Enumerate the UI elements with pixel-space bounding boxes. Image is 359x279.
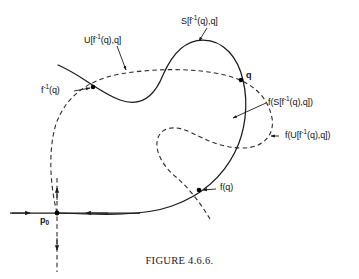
- figure-caption: FIGURE 4.6.6.: [0, 255, 359, 266]
- f-q-point: [197, 188, 202, 193]
- label-s-segment-pre: S[f: [181, 16, 192, 26]
- label-q: q: [246, 71, 251, 80]
- label-f-s-segment-post: (q),q]): [290, 97, 313, 107]
- label-q-text: q: [246, 70, 251, 80]
- label-f-inverse-q-post: (q): [49, 85, 60, 95]
- label-u-segment-pre: U[f: [84, 35, 95, 45]
- label-p0-sub: 0: [45, 219, 49, 226]
- unstable-manifold-curve: [51, 70, 273, 219]
- label-f-inverse-q: f-1(q): [41, 86, 60, 95]
- label-f-q-text: f(q): [220, 182, 233, 192]
- label-f-u-segment-pre: f(U[f: [285, 130, 302, 140]
- label-u-segment-post: (q),q]: [101, 35, 121, 45]
- label-s-segment: S[f-1(q),q]: [181, 17, 218, 26]
- s-segment-leader: [199, 28, 207, 41]
- label-s-segment-post: (q),q]: [197, 16, 217, 26]
- u-segment-leader: [117, 46, 126, 70]
- figure-container: S[f-1(q),q] U[f-1(q),q] f-1(q) q f(S[f-1…: [0, 0, 359, 279]
- p0-point: [55, 211, 60, 216]
- label-f-u-segment-post: (q),q]): [307, 130, 330, 140]
- label-f-u-segment: f(U[f-1(q),q]): [285, 131, 330, 140]
- label-p0: p0: [40, 216, 49, 225]
- q-point: [239, 78, 244, 83]
- label-f-q: f(q): [220, 183, 233, 192]
- label-f-s-segment-pre: f(S[f: [268, 97, 284, 107]
- label-u-segment: U[f-1(q),q]: [84, 36, 121, 45]
- stable-manifold-curve: [58, 40, 246, 214]
- label-f-s-segment: f(S[f-1(q),q]): [268, 98, 313, 107]
- f-s-segment-leader: [233, 103, 266, 118]
- f-inverse-q-point: [91, 85, 96, 90]
